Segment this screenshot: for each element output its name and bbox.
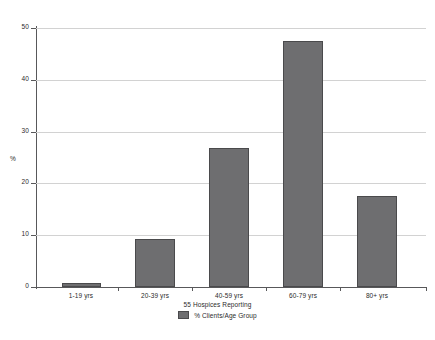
x-category-label-80-plus-yrs: 80+ yrs [340,292,414,299]
gridline-40 [36,80,426,81]
y-tick-50: 50 [0,24,29,32]
y-tick-40: 40 [0,76,29,84]
gridline-30 [36,132,426,133]
y-tick-label-10: 10 [7,231,29,238]
y-tick-label-30: 30 [7,128,29,135]
plot-area [36,28,426,287]
y-tick-label-50: 50 [7,24,29,31]
bar-20-39-yrs [135,239,175,287]
x-tick-mark-4 [340,287,341,291]
y-tick-30: 30 [0,128,29,136]
x-category-label-40-59-yrs: 40-59 yrs [192,292,266,299]
x-category-label-1-19-yrs: 1-19 yrs [44,292,118,299]
x-axis-line [36,287,427,288]
x-tick-mark-3 [266,287,267,291]
x-tick-mark-1 [118,287,119,291]
bar-80-plus-yrs [357,196,397,287]
y-tick-label-40: 40 [7,76,29,83]
bar-60-79-yrs [283,41,323,287]
x-tick-mark-2 [192,287,193,291]
bar-40-59-yrs [209,148,249,287]
x-category-label-60-79-yrs: 60-79 yrs [266,292,340,299]
y-tick-label-0: 0 [7,283,29,290]
x-category-label-20-39-yrs: 20-39 yrs [118,292,192,299]
legend-swatch-icon [178,311,189,319]
y-tick-0: 0 [0,283,29,291]
chart-legend: % Clients/Age Group [0,311,435,319]
y-tick-label-20: 20 [7,179,29,186]
legend-label-clients-age-group: % Clients/Age Group [194,312,257,319]
bar-1-19-yrs [62,283,101,287]
x-tick-mark-5 [426,287,427,291]
chart-subtitle: 55 Hospices Reporting [0,301,435,308]
y-axis-label: % [10,155,16,162]
bar-chart: % 50 40 30 20 10 0 1- [0,0,435,340]
gridline-50 [36,28,426,29]
y-tick-20: 20 [0,179,29,187]
y-tick-10: 10 [0,231,29,239]
